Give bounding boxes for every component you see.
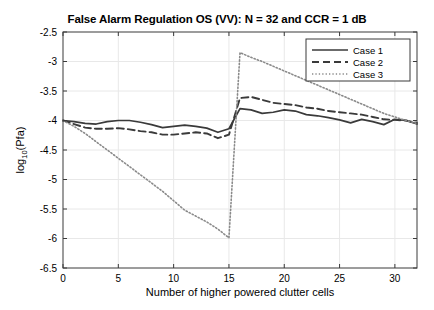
x-tick-label: 20 bbox=[279, 273, 291, 284]
y-tick-labels: -2.5-3-3.5-4-4.5-5-5.5-6-6.5 bbox=[40, 27, 58, 274]
y-tick-label: -6.5 bbox=[40, 263, 58, 274]
chart-plot-area: 051015202530 -2.5-3-3.5-4-4.5-5-5.5-6-6.… bbox=[0, 0, 434, 310]
x-tick-label: 0 bbox=[60, 273, 66, 284]
chart-figure: False Alarm Regulation OS (VV): N = 32 a… bbox=[0, 0, 434, 310]
x-tick-labels: 051015202530 bbox=[60, 273, 401, 284]
y-axis-title: log10(Pfa) bbox=[14, 127, 29, 174]
y-axis-title-base: log bbox=[14, 159, 26, 174]
x-tick-label: 10 bbox=[168, 273, 180, 284]
y-axis-title-sub: 10 bbox=[20, 150, 29, 158]
x-axis-title: Number of higher powered clutter cells bbox=[146, 286, 335, 298]
y-tick-label: -6 bbox=[48, 233, 57, 244]
x-tick-label: 5 bbox=[116, 273, 122, 284]
x-tick-label: 25 bbox=[334, 273, 346, 284]
legend-label-1: Case 1 bbox=[353, 45, 383, 56]
x-tick-label: 30 bbox=[389, 273, 401, 284]
y-tick-label: -5.5 bbox=[40, 204, 58, 215]
series-line-2 bbox=[63, 97, 417, 138]
y-tick-label: -2.5 bbox=[40, 27, 58, 38]
y-tick-label: -4.5 bbox=[40, 145, 58, 156]
svg-text:log10(Pfa): log10(Pfa) bbox=[14, 127, 29, 174]
x-tick-label: 15 bbox=[223, 273, 235, 284]
legend-label-2: Case 2 bbox=[353, 57, 383, 68]
y-tick-label: -4 bbox=[48, 115, 57, 126]
y-axis-title-tail: (Pfa) bbox=[14, 127, 26, 151]
y-tick-label: -3 bbox=[48, 56, 57, 67]
legend-label-3: Case 3 bbox=[353, 69, 383, 80]
y-tick-label: -3.5 bbox=[40, 86, 58, 97]
y-tick-label: -5 bbox=[48, 174, 57, 185]
legend[interactable]: Case 1Case 2Case 3 bbox=[306, 39, 410, 81]
